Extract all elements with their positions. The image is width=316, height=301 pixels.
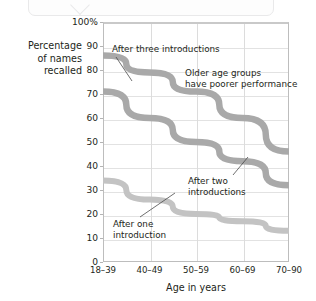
- x-axis-tick-label: 50–59: [183, 265, 209, 275]
- annotation-two-line1: After two: [188, 176, 246, 187]
- y-axis-tick-mark: [100, 166, 103, 167]
- y-axis-title-line2: of names: [4, 53, 82, 66]
- y-axis-tick-label: 60: [66, 113, 98, 123]
- annotation-after-three: After three introductions: [112, 44, 220, 55]
- y-axis-tick-mark: [100, 238, 103, 239]
- x-axis-tick-label: 18–39: [90, 265, 116, 275]
- y-axis-tick-label: 100%: [66, 17, 98, 27]
- annotation-older-age-groups: Older age groups have poorer performance: [185, 68, 297, 89]
- gridline-horizontal: [104, 96, 288, 97]
- y-axis-tick-label: 40: [66, 161, 98, 171]
- y-axis-tick-label: 10: [66, 233, 98, 243]
- gridline-vertical: [197, 24, 198, 261]
- gridline-horizontal: [104, 216, 288, 217]
- x-axis-tick-label: 40–49: [136, 265, 162, 275]
- y-axis-tick-label: 50: [66, 137, 98, 147]
- x-axis-tick-label: 70–90: [276, 265, 302, 275]
- gridline-horizontal: [104, 168, 288, 169]
- y-axis-tick-label: 30: [66, 185, 98, 195]
- y-axis-tick-mark: [100, 22, 103, 23]
- annotation-one-line2: introduction: [113, 230, 166, 241]
- x-axis-title: Age in years: [103, 282, 289, 293]
- x-axis-tick-label: 60–69: [229, 265, 255, 275]
- y-axis-tick-mark: [100, 190, 103, 191]
- y-axis-tick-label: 80: [66, 65, 98, 75]
- chart-figure: Percentage of names recalled 100%9080706…: [0, 0, 316, 301]
- gridline-horizontal: [104, 120, 288, 121]
- y-axis-tick-mark: [100, 46, 103, 47]
- speech-bubble-tail: [70, 0, 90, 15]
- y-axis-tick-mark: [100, 70, 103, 71]
- y-axis-tick-label: 70: [66, 89, 98, 99]
- y-axis-tick-mark: [100, 214, 103, 215]
- gridline-vertical: [244, 24, 245, 261]
- annotation-older-line1: Older age groups: [185, 68, 297, 79]
- y-axis-tick-mark: [100, 142, 103, 143]
- annotation-two-line2: introductions: [188, 187, 246, 198]
- y-axis-tick-label: 20: [66, 209, 98, 219]
- y-axis-tick-mark: [100, 118, 103, 119]
- gridline-horizontal: [104, 144, 288, 145]
- speech-bubble: [28, 0, 274, 16]
- y-axis-tick-mark: [100, 94, 103, 95]
- y-axis-tick-mark: [100, 262, 103, 263]
- annotation-one-line1: After one: [113, 219, 166, 230]
- annotation-older-line2: have poorer performance: [185, 79, 297, 90]
- annotation-after-one: After one introduction: [113, 219, 166, 240]
- y-axis-tick-label: 90: [66, 41, 98, 51]
- annotation-after-two: After two introductions: [188, 176, 246, 197]
